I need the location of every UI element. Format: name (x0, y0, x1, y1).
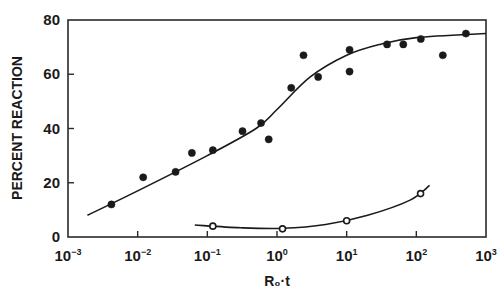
x-tick-label: 102 (405, 247, 427, 264)
y-axis: 020406080 (43, 11, 74, 245)
y-tick-label: 20 (43, 174, 60, 191)
filled-circle-point (315, 73, 322, 80)
open-circle-point (418, 191, 424, 197)
fit-curve (195, 185, 430, 228)
x-tick-label: 10−3 (55, 247, 82, 264)
filled-circle-point (346, 46, 353, 53)
y-axis-title: PERCENT REACTION (9, 56, 25, 200)
filled-circle-point (172, 168, 179, 175)
y-tick-label: 80 (43, 11, 60, 28)
x-axis-title: R₀·t (264, 273, 290, 289)
x-tick-label: 103 (475, 247, 497, 264)
filled-circle-point (383, 41, 390, 48)
x-tick-label: 10−1 (194, 247, 221, 264)
percent-reaction-chart: 020406080 10−310−210−1100101102103 PERCE… (0, 0, 503, 296)
filled-circle-point (188, 149, 195, 156)
filled-circle-point (140, 174, 147, 181)
filled-circle-point (439, 52, 446, 59)
x-tick-label: 10−2 (124, 247, 151, 264)
filled-circle-point (239, 128, 246, 135)
open-circle-point (344, 218, 350, 224)
y-tick-label: 40 (43, 120, 60, 137)
fit-curves (87, 34, 486, 229)
x-tick-label: 100 (266, 247, 288, 264)
filled-circle-point (400, 41, 407, 48)
data-points (108, 30, 470, 232)
filled-circle-point (209, 147, 216, 154)
filled-circle-point (462, 30, 469, 37)
filled-circle-point (346, 68, 353, 75)
filled-circle-point (265, 136, 272, 143)
filled-circle-point (257, 119, 264, 126)
open-circle-point (210, 223, 216, 229)
filled-circle-point (288, 84, 295, 91)
open-circle-point (280, 226, 286, 232)
plot-frame (68, 20, 486, 237)
x-tick-label: 101 (336, 247, 358, 264)
y-tick-label: 60 (43, 65, 60, 82)
filled-circle-point (417, 35, 424, 42)
x-axis: 10−310−210−1100101102103 (55, 231, 497, 264)
y-tick-label: 0 (52, 228, 60, 245)
filled-circle-point (300, 52, 307, 59)
filled-circle-point (108, 201, 115, 208)
